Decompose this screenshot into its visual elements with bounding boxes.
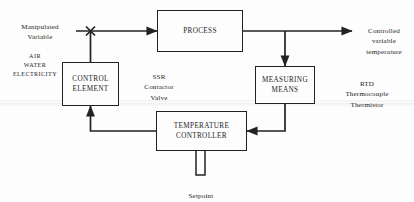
annotation-utilities: AIR WATER ELECTRICITY bbox=[4, 43, 66, 80]
block-measuring-means-label: MEASURING MEANS bbox=[262, 75, 308, 96]
annotation-sensors: RTD Thermocouple Thermistor bbox=[325, 68, 409, 110]
block-process-label: PROCESS bbox=[183, 26, 217, 36]
block-control-element[interactable]: CONTROL ELEMENT bbox=[62, 62, 119, 106]
annotation-manipulated-variable: Manipulated Variable bbox=[6, 11, 74, 43]
annotation-utilities-label: AIR WATER ELECTRICITY bbox=[13, 53, 57, 77]
annotation-manipulated-variable-label: Manipulated Variable bbox=[21, 23, 59, 42]
block-control-element-label: CONTROL ELEMENT bbox=[72, 74, 108, 95]
annotation-setpoint: Setpoint bbox=[175, 180, 227, 201]
block-temperature-controller-label: TEMPERATURE CONTROLLER bbox=[174, 121, 229, 142]
block-diagram-canvas: PROCESS CONTROL ELEMENT MEASURING MEANS … bbox=[0, 0, 414, 202]
wire-measuring-to-controller bbox=[247, 104, 285, 131]
block-measuring-means[interactable]: MEASURING MEANS bbox=[255, 66, 315, 104]
annotation-controlled-variable: Controlled variable temperature bbox=[356, 15, 412, 57]
wire-controller-to-control-element bbox=[91, 106, 157, 131]
annotation-final-control-devices-label: SSR Contactor Valve bbox=[144, 73, 173, 102]
annotation-setpoint-label: Setpoint bbox=[189, 192, 214, 200]
block-process[interactable]: PROCESS bbox=[157, 10, 243, 52]
block-temperature-controller[interactable]: TEMPERATURE CONTROLLER bbox=[156, 111, 247, 151]
annotation-final-control-devices: SSR Contactor Valve bbox=[128, 61, 190, 103]
annotation-controlled-variable-label: Controlled variable temperature bbox=[366, 27, 402, 56]
annotation-sensors-label: RTD Thermocouple Thermistor bbox=[345, 80, 388, 109]
